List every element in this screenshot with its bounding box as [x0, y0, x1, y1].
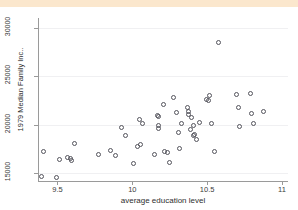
scatter-point — [119, 125, 124, 130]
scatter-point — [237, 124, 242, 129]
y-axis-tick — [34, 28, 38, 29]
x-axis-tick-label: 9.5 — [37, 185, 77, 194]
y-axis-tick — [34, 125, 38, 126]
y-axis-title: 1979 Median Family Inc.. — [16, 25, 25, 155]
x-axis-tick-label: 11 — [262, 185, 298, 194]
scatter-point — [236, 105, 241, 110]
gridline-y — [38, 76, 288, 77]
scatter-point — [249, 111, 254, 116]
x-axis-title: average education level — [38, 196, 288, 205]
x-axis-tick-label: 10 — [112, 185, 152, 194]
scatter-point — [234, 92, 239, 97]
scatter-point — [209, 121, 214, 126]
y-axis-tick-label: 30000 — [4, 9, 11, 43]
scatter-point — [179, 121, 184, 126]
y-axis-tick-label: 15000 — [4, 155, 11, 189]
scatter-point — [174, 110, 179, 115]
scatter-point — [176, 130, 181, 135]
y-axis-tick — [34, 173, 38, 174]
x-axis-tick-label: 10.5 — [187, 185, 227, 194]
scatter-point — [161, 102, 166, 107]
x-axis-line — [38, 181, 288, 182]
gridline-y — [38, 173, 288, 174]
scatter-point — [248, 91, 253, 96]
scatter-point — [41, 149, 46, 154]
scatter-plot-figure: 1979 Median Family Inc.. average educati… — [0, 0, 298, 210]
y-axis-line — [38, 18, 39, 181]
scatter-point — [167, 160, 172, 165]
y-axis-tick — [34, 76, 38, 77]
plot-area — [38, 18, 288, 181]
scatter-point — [251, 121, 256, 126]
scatter-point — [194, 137, 199, 142]
plot-canvas: 1979 Median Family Inc.. average educati… — [0, 7, 298, 210]
scatter-point — [131, 161, 136, 166]
gridline-y — [38, 28, 288, 29]
top-cutoff-band — [0, 0, 298, 7]
scatter-point — [197, 120, 202, 125]
scatter-point — [152, 152, 157, 157]
y-axis-tick-label: 25000 — [4, 58, 11, 92]
scatter-point — [212, 149, 217, 154]
scatter-point — [191, 123, 196, 128]
scatter-point — [171, 95, 176, 100]
y-axis-tick-label: 20000 — [4, 106, 11, 140]
